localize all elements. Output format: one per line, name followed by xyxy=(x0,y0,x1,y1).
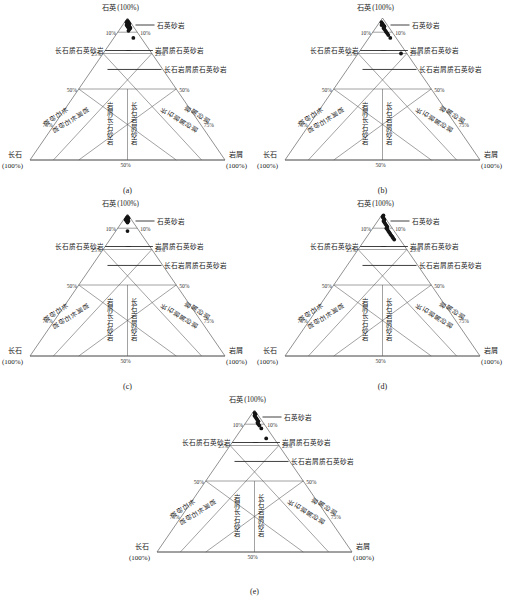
data-point xyxy=(126,221,130,225)
label-feldspathic-litharenite: 长石岩屑砂岩 xyxy=(258,493,265,538)
label-feldspathic-quartz-arenite: 长石质石英砂岩 xyxy=(310,242,359,251)
label-lithic-arkose-slant: 岩屑长石砂岩 xyxy=(305,106,347,135)
right-tick-10: 10% xyxy=(395,30,406,36)
label-feldspathic-lithic-quartz-arenite: 长石岩屑质石英砂岩 xyxy=(164,65,227,74)
corner-value-lithic: (100%) xyxy=(226,162,248,170)
corner-value-feldspar: (100%) xyxy=(2,162,24,170)
label-lithic-arkose: 岩屑长石砂岩 xyxy=(107,297,114,342)
left-tick-50: 50% xyxy=(194,479,205,485)
left-tick-10: 10% xyxy=(233,422,244,428)
data-point xyxy=(131,36,135,40)
base-mid-tick: 50% xyxy=(376,162,387,168)
corner-value-feldspar: (100%) xyxy=(257,162,279,170)
corner-label-lithic: 岩屑 xyxy=(229,346,243,355)
left-tick-50: 50% xyxy=(322,87,333,93)
apex-label-quartz: 石英 (100%) xyxy=(102,3,140,12)
label-lithic-arkose: 岩屑长石砂岩 xyxy=(362,101,369,146)
figure-sheet: 10%25%50%75%10%25%50%75%50%石英 (100%)长石(1… xyxy=(0,0,510,601)
label-quartz-arenite: 石英砂岩 xyxy=(157,21,185,30)
label-lithic-arkose: 岩屑长石砂岩 xyxy=(362,297,369,342)
label-lithic-quartz-arenite: 岩屑质石英砂岩 xyxy=(282,438,331,447)
label-lithic-arkose-slant: 岩屑长石砂岩 xyxy=(305,302,347,331)
right-tick-10: 10% xyxy=(140,226,151,232)
data-point xyxy=(126,229,130,233)
label-feldspathic-litharenite: 长石岩屑砂岩 xyxy=(131,101,138,146)
label-lithic-arkose-slant: 岩屑长石砂岩 xyxy=(50,106,92,135)
label-feldspathic-quartz-arenite: 长石质石英砂岩 xyxy=(182,438,231,447)
data-point xyxy=(399,52,403,56)
panel-caption: (d) xyxy=(255,382,510,391)
left-tick-50: 50% xyxy=(322,283,333,289)
label-lithic-arkose: 岩屑长石砂岩 xyxy=(234,493,241,538)
panel-b: 10%25%50%75%10%25%50%75%50%石英 (100%)长石(1… xyxy=(255,0,510,196)
corner-label-lithic: 岩屑 xyxy=(484,346,498,355)
left-tick-10: 10% xyxy=(106,30,117,36)
panel-c: 10%25%50%75%10%25%50%75%50%石英 (100%)长石(1… xyxy=(0,196,255,392)
corner-label-feldspar: 长石 xyxy=(263,150,277,159)
right-tick-10: 10% xyxy=(267,422,278,428)
panel-caption: (b) xyxy=(255,186,510,195)
corner-value-feldspar: (100%) xyxy=(129,554,151,562)
panel-d: 10%25%50%75%10%25%50%75%50%石英 (100%)长石(1… xyxy=(255,196,510,392)
label-feldspathic-quartz-arenite: 长石质石英砂岩 xyxy=(310,46,359,55)
right-tick-50: 50% xyxy=(179,87,190,93)
corner-label-feldspar: 长石 xyxy=(8,346,22,355)
label-lithic-arkose: 岩屑长石砂岩 xyxy=(107,101,114,146)
corner-value-feldspar: (100%) xyxy=(257,358,279,366)
label-quartz-arenite: 石英砂岩 xyxy=(412,21,440,30)
label-feldspathic-litharenite: 长石岩屑砂岩 xyxy=(131,297,138,342)
apex-label-quartz: 石英 (100%) xyxy=(229,395,267,404)
label-feldspathic-lithic-quartz-arenite: 长石岩屑质石英砂岩 xyxy=(419,261,482,270)
label-lithic-arkose-slant: 岩屑长石砂岩 xyxy=(177,498,219,527)
data-point xyxy=(392,238,396,242)
corner-value-lithic: (100%) xyxy=(481,162,503,170)
label-quartz-arenite: 石英砂岩 xyxy=(412,217,440,226)
base-mid-tick: 50% xyxy=(121,358,132,364)
label-lithic-arkose-slant: 岩屑长石砂岩 xyxy=(50,302,92,331)
data-point xyxy=(127,29,131,33)
left-tick-50: 50% xyxy=(67,87,78,93)
left-tick-50: 50% xyxy=(67,283,78,289)
corner-label-feldspar: 长石 xyxy=(263,346,277,355)
left-tick-10: 10% xyxy=(361,226,372,232)
apex-label-quartz: 石英 (100%) xyxy=(357,199,395,208)
data-points xyxy=(253,411,269,440)
apex-label-quartz: 石英 (100%) xyxy=(357,3,395,12)
label-feldspathic-quartz-arenite: 长石质石英砂岩 xyxy=(55,46,104,55)
label-lithic-quartz-arenite: 岩屑质石英砂岩 xyxy=(410,242,459,251)
corner-label-lithic: 岩屑 xyxy=(229,150,243,159)
label-feldspathic-lithic-quartz-arenite: 长石岩屑质石英砂岩 xyxy=(291,457,354,466)
label-lithic-quartz-arenite: 岩屑质石英砂岩 xyxy=(155,46,204,55)
label-lithic-quartz-arenite: 岩屑质石英砂岩 xyxy=(410,46,459,55)
label-feldspathic-litharenite: 长石岩屑砂岩 xyxy=(386,101,393,146)
right-tick-50: 50% xyxy=(434,87,445,93)
right-tick-10: 10% xyxy=(140,30,151,36)
data-points xyxy=(125,19,136,40)
label-feldspathic-litharenite: 长石岩屑砂岩 xyxy=(386,297,393,342)
panel-caption: (c) xyxy=(0,382,255,391)
panel-caption: (a) xyxy=(0,186,255,195)
left-tick-10: 10% xyxy=(361,30,372,36)
right-tick-50: 50% xyxy=(434,283,445,289)
corner-value-lithic: (100%) xyxy=(226,358,248,366)
corner-label-lithic: 岩屑 xyxy=(356,542,370,551)
panel-caption: (e) xyxy=(127,587,382,596)
corner-label-feldspar: 长石 xyxy=(8,150,22,159)
base-mid-tick: 50% xyxy=(121,162,132,168)
corner-value-feldspar: (100%) xyxy=(2,358,24,366)
data-points xyxy=(381,214,397,242)
label-feldspathic-quartz-arenite: 长石质石英砂岩 xyxy=(55,242,104,251)
label-quartz-arenite: 石英砂岩 xyxy=(284,413,312,422)
data-point xyxy=(388,36,392,40)
corner-label-feldspar: 长石 xyxy=(135,542,149,551)
right-tick-10: 10% xyxy=(395,226,406,232)
label-lithic-quartz-arenite: 岩屑质石英砂岩 xyxy=(155,242,204,251)
right-tick-50: 50% xyxy=(306,479,317,485)
left-tick-10: 10% xyxy=(106,226,117,232)
panel-a: 10%25%50%75%10%25%50%75%50%石英 (100%)长石(1… xyxy=(0,0,255,196)
corner-value-lithic: (100%) xyxy=(481,358,503,366)
base-mid-tick: 50% xyxy=(376,358,387,364)
label-quartz-arenite: 石英砂岩 xyxy=(157,217,185,226)
panel-e: 10%25%50%75%10%25%50%75%50%石英 (100%)长石(1… xyxy=(127,392,382,601)
corner-label-lithic: 岩屑 xyxy=(484,150,498,159)
